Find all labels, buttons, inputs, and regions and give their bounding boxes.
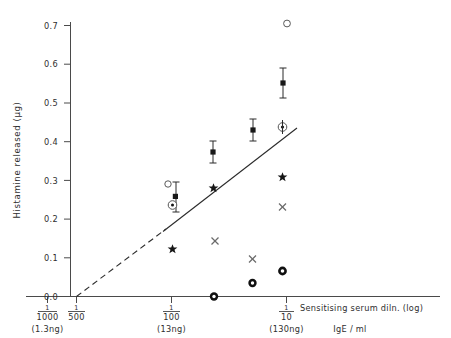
x-tick-note: (130ng) (269, 324, 304, 334)
y-tick-labels: 0.7 0.6 0.5 0.4 0.3 0.2 0.1 0.0 (44, 21, 58, 302)
x-tick-denominator: 1000 (36, 312, 58, 322)
data-point-donut (210, 292, 218, 300)
data-point-circled-dot (168, 201, 177, 210)
data-point-cross (279, 204, 286, 211)
y-tick-label: 0.4 (44, 137, 58, 147)
x-axis-unit-note: IgE / ml (333, 324, 366, 334)
data-point-mean-square (210, 141, 217, 163)
y-axis-title: Histamine released (µg) (12, 101, 22, 218)
x-tick-label-500: 1 500 (68, 304, 85, 322)
x-tick-label-100: 1 100 (13ng) (157, 304, 186, 334)
regression-line-dashed (77, 229, 167, 297)
data-point-star (168, 244, 178, 253)
x-tick-note: (13ng) (157, 324, 186, 334)
data-point-donut (278, 267, 287, 276)
data-point-circled-dot (278, 120, 287, 134)
y-tick-label: 0.0 (44, 292, 58, 302)
y-tick-label: 0.2 (44, 214, 58, 224)
y-tick-label: 0.1 (44, 253, 58, 263)
data-point-mean-square (250, 119, 257, 141)
x-tick-denominator: 500 (68, 312, 85, 322)
x-tick-label-1000: 1 1000 (1.3ng) (32, 304, 64, 334)
x-tick-denominator: 100 (163, 312, 180, 322)
figure-panel: 0.7 0.6 0.5 0.4 0.3 0.2 0.1 0.0 Histamin… (0, 0, 451, 338)
y-tick-label: 0.3 (44, 176, 58, 186)
data-point-star (209, 183, 219, 192)
x-axis-title: Sensitising serum diln. (log) (300, 303, 423, 313)
y-tick-label: 0.5 (44, 98, 58, 108)
x-tick-denominator: 10 (281, 312, 292, 322)
scatter-plot: 0.7 0.6 0.5 0.4 0.3 0.2 0.1 0.0 Histamin… (0, 0, 451, 338)
regression-line-solid (163, 128, 297, 232)
data-point-mean-square (280, 68, 287, 98)
svg-text:Histamine released (µg): Histamine released (µg) (12, 101, 22, 218)
y-tick-label: 0.7 (44, 21, 58, 31)
data-point-star (278, 172, 288, 181)
data-point-open-circle (284, 20, 291, 27)
data-point-donut (248, 279, 256, 287)
y-tick-label: 0.6 (44, 59, 58, 69)
y-axis (64, 22, 71, 297)
data-point-cross (249, 256, 256, 263)
data-point-cross (212, 238, 219, 245)
data-point-open-circle (165, 181, 171, 187)
x-tick-note: (1.3ng) (32, 324, 64, 334)
x-tick-label-10: 1 10 (130ng) (269, 304, 304, 334)
